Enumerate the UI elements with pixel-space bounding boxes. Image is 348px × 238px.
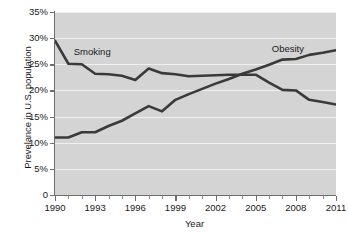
x-tick-label: 2002 (196, 202, 236, 213)
x-tick-mark-minor (202, 196, 203, 199)
x-tick-mark-major (336, 196, 337, 201)
x-tick-mark-major (256, 196, 257, 201)
y-tick-label: 30% (4, 33, 48, 43)
y-tick-mark (50, 143, 55, 144)
y-tick-label: 35% (4, 7, 48, 17)
y-tick-mark (50, 169, 55, 170)
y-tick-label: 20% (4, 85, 48, 95)
x-tick-mark-minor (82, 196, 83, 199)
x-tick-label: 2011 (316, 202, 348, 213)
x-tick-label: 1993 (75, 202, 115, 213)
y-tick-label: 5% (4, 164, 48, 174)
x-tick-label: 1996 (115, 202, 155, 213)
y-tick-label: 25% (4, 59, 48, 69)
x-tick-label: 2008 (276, 202, 316, 213)
chart-figure: Prevelance in U.S. population 05%10%15%2… (0, 0, 348, 238)
y-tick-mark (50, 38, 55, 39)
y-tick-mark (50, 12, 55, 13)
y-tick-mark (50, 90, 55, 91)
x-tick-mark-minor (242, 196, 243, 199)
y-tick-label: 0 (4, 190, 48, 200)
series-label-smoking: Smoking (74, 46, 111, 57)
x-tick-mark-minor (229, 196, 230, 199)
y-tick-label: 15% (4, 112, 48, 122)
x-tick-mark-minor (282, 196, 283, 199)
x-tick-mark-minor (309, 196, 310, 199)
x-tick-mark-major (175, 196, 176, 201)
x-tick-mark-minor (269, 196, 270, 199)
series-line-obesity (55, 50, 336, 137)
y-tick-label: 10% (4, 138, 48, 148)
x-tick-label: 1990 (35, 202, 75, 213)
x-tick-mark-minor (189, 196, 190, 199)
x-axis-title: Year (53, 218, 336, 229)
y-tick-mark (50, 64, 55, 65)
y-tick-mark (50, 117, 55, 118)
x-tick-label: 2005 (236, 202, 276, 213)
x-tick-mark-minor (122, 196, 123, 199)
x-tick-mark-major (55, 196, 56, 201)
series-lines (55, 12, 336, 195)
x-tick-mark-major (296, 196, 297, 201)
x-tick-mark-minor (68, 196, 69, 199)
x-tick-label: 1999 (155, 202, 195, 213)
x-tick-mark-major (95, 196, 96, 201)
x-tick-mark-minor (109, 196, 110, 199)
series-label-obesity: Obesity (272, 43, 304, 54)
x-tick-mark-major (216, 196, 217, 201)
x-tick-mark-minor (323, 196, 324, 199)
x-tick-mark-major (135, 196, 136, 201)
x-tick-mark-minor (162, 196, 163, 199)
x-tick-mark-minor (149, 196, 150, 199)
